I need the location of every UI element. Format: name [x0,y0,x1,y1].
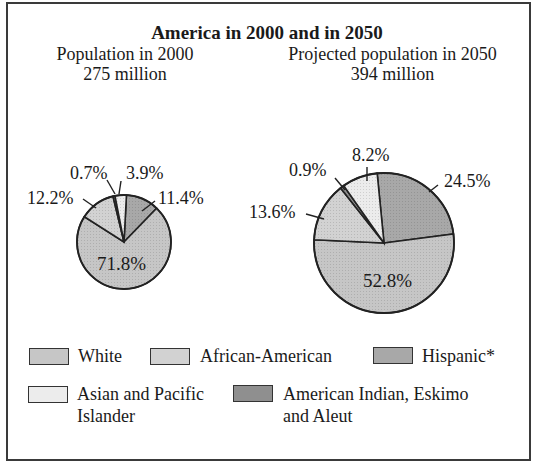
label-2050-hispanic: 24.5% [444,172,491,190]
leader-line [119,181,121,194]
label-2050-indian: 0.9% [289,161,327,179]
leader-line [83,199,96,208]
legend-label-asian-line1: Asian and Pacific [77,383,204,405]
label-2000-indian: 0.7% [70,164,108,182]
legend-swatch-white [29,348,69,365]
legend-label-american-indian: American Indian, Eskimo and Aleut [283,383,468,427]
label-2050-african: 13.6% [249,203,296,221]
legend-label-african-american: African-American [200,345,332,367]
legend-swatch-american-indian [233,385,273,402]
legend-label-white: White [78,345,122,367]
legend-swatch-african-american [150,348,190,365]
label-2050-asian: 8.2% [352,146,390,164]
label-2000-white: 71.8% [97,255,146,273]
legend-label-indian-line1: American Indian, Eskimo [283,383,468,405]
label-2000-african: 12.2% [27,189,74,207]
label-2000-hispanic: 11.4% [158,189,204,207]
leader-line [107,180,115,194]
label-2050-white: 52.8% [363,272,412,290]
leader-line [429,185,438,192]
legend-label-hispanic: Hispanic* [422,345,495,367]
legend-label-asian-line2: Islander [77,405,204,427]
legend-label-indian-line2: and Aleut [283,405,468,427]
legend-swatch-hispanic [373,347,413,364]
slice-texture [377,173,453,243]
label-2000-asian: 3.9% [126,164,164,182]
legend-label-asian-pacific: Asian and Pacific Islander [77,383,204,427]
legend-swatch-asian-pacific [28,386,68,403]
pie-2050 [306,167,454,313]
